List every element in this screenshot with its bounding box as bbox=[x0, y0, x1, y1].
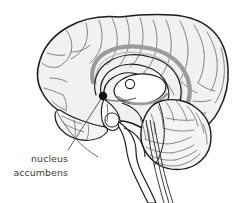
brain-diagram-figure: nucleus accumbens bbox=[0, 0, 249, 203]
label-line-accumbens: accumbens bbox=[13, 167, 68, 178]
interthalamic-adhesion bbox=[125, 79, 134, 88]
label-line-nucleus: nucleus bbox=[31, 153, 68, 164]
brain-illustration-svg: nucleus accumbens bbox=[0, 0, 249, 203]
nucleus-accumbens-marker bbox=[99, 92, 107, 100]
